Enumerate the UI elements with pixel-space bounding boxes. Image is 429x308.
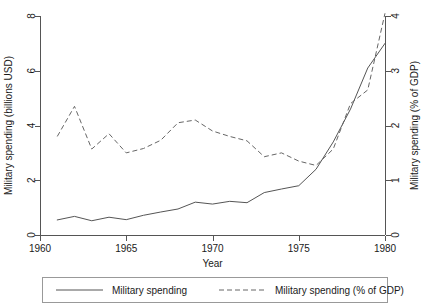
legend-label-military-spending-pct-gdp: Military spending (% of GDP) — [275, 285, 404, 296]
left-tick-label: 0 — [26, 232, 37, 238]
right-axis-title: Military spending (% of GDP) — [409, 61, 420, 190]
left-tick-label: 6 — [26, 68, 37, 74]
right-tick-label: 4 — [390, 13, 401, 19]
x-axis-title: Year — [202, 258, 223, 269]
left-tick-label: 2 — [26, 177, 37, 183]
legend-label-military-spending: Military spending — [112, 285, 187, 296]
right-tick-label: 2 — [390, 122, 401, 128]
right-tick-label: 0 — [390, 232, 401, 238]
left-tick-label: 8 — [26, 13, 37, 19]
chart-legend: Military spending Military spending (% o… — [43, 278, 404, 303]
military-spending-line-chart: 02468 Military spending (billions USD) 0… — [0, 0, 429, 308]
chart-figure: 02468 Military spending (billions USD) 0… — [0, 0, 429, 308]
x-tick-label: 1965 — [115, 243, 138, 254]
right-tick-label: 1 — [390, 177, 401, 183]
x-tick-label: 1970 — [201, 243, 224, 254]
x-tick-label: 1975 — [288, 243, 311, 254]
x-tick-label: 1960 — [29, 243, 52, 254]
left-tick-label: 4 — [26, 122, 37, 128]
x-tick-label: 1980 — [374, 243, 397, 254]
left-axis-title: Military spending (billions USD) — [3, 56, 14, 195]
right-tick-label: 3 — [390, 68, 401, 74]
